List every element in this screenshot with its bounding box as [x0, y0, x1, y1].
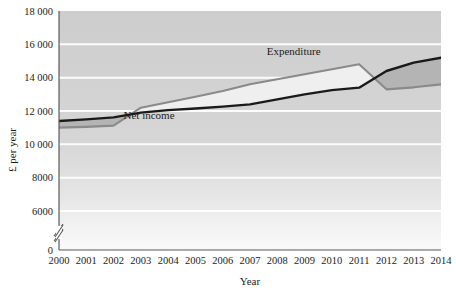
income-expenditure-line-chart: 18 00016 00014 00012 00010 000800060000 …: [0, 0, 456, 292]
y-axis-tick-label: 6000: [32, 206, 53, 217]
x-axis-tick-label: 2008: [267, 255, 288, 266]
x-axis-tick-label: 2012: [376, 255, 397, 266]
x-axis-tick-label: 2010: [321, 255, 342, 266]
y-axis-tick-labels: 18 00016 00014 00012 00010 000800060000: [24, 6, 53, 256]
plot-background: [59, 11, 441, 250]
x-axis-tick-label: 2014: [431, 255, 453, 266]
x-axis-tick-label: 2005: [185, 255, 206, 266]
y-axis-tick-label: 10 000: [24, 139, 53, 150]
y-axis-tick-label: 12 000: [24, 106, 53, 117]
x-axis-tick-label: 2000: [49, 255, 70, 266]
y-axis-tick-label: 16 000: [24, 39, 53, 50]
expenditure-series-label: Expenditure: [267, 45, 321, 57]
x-axis-tick-label: 2003: [130, 255, 151, 266]
y-axis-tick-label: 8000: [32, 172, 53, 183]
x-axis-title: Year: [240, 275, 261, 287]
y-axis-title: £ per year: [6, 128, 18, 172]
x-axis-tick-label: 2007: [240, 255, 261, 266]
y-axis-tick-label: 14 000: [24, 72, 53, 83]
x-axis-tick-label: 2011: [349, 255, 370, 266]
x-axis-tick-labels: 2000200120022003200420052006200720082009…: [49, 255, 453, 266]
y-axis-tick-label: 18 000: [24, 6, 53, 17]
net-income-series-label: Net income: [124, 109, 175, 121]
x-axis-tick-label: 2009: [294, 255, 315, 266]
y-axis-zero-label: 0: [48, 245, 53, 256]
x-axis-tick-label: 2002: [103, 255, 124, 266]
x-axis-tick-label: 2004: [158, 255, 180, 266]
x-axis-tick-label: 2013: [403, 255, 424, 266]
chart-container: 18 00016 00014 00012 00010 000800060000 …: [0, 0, 456, 292]
x-axis-tick-label: 2001: [76, 255, 97, 266]
x-axis-tick-label: 2006: [212, 255, 233, 266]
